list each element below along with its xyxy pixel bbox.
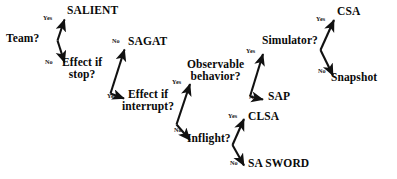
edge-simulator-yes-csa xyxy=(321,20,335,50)
edge-label-team-yes: Yes xyxy=(43,15,52,21)
edge-label-observable-yes: Yes xyxy=(246,48,255,54)
node-sa-sword[interactable]: SA SWORD xyxy=(248,158,309,170)
node-simulator[interactable]: Simulator? xyxy=(262,35,318,47)
node-csa[interactable]: CSA xyxy=(337,6,360,18)
node-effect-if-interrupt[interactable]: Effect if interrupt? xyxy=(122,89,174,112)
node-snapshot[interactable]: Snapshot xyxy=(331,72,377,84)
edge-team-yes-salient xyxy=(58,20,65,41)
node-sap[interactable]: SAP xyxy=(268,91,290,103)
edge-label-inflight-yes: Yes xyxy=(228,113,237,119)
edge-label-effectint-yes: Yes xyxy=(172,79,181,85)
node-clsa[interactable]: CLSA xyxy=(248,111,279,123)
edge-effectstop-no-sagat xyxy=(111,50,125,94)
edge-observable-yes-simulator xyxy=(250,54,263,97)
edge-label-team-no: No xyxy=(45,59,53,65)
edge-label-effectstop-yes: Yes xyxy=(107,93,116,99)
node-effect-if-stop[interactable]: Effect if stop? xyxy=(62,57,102,80)
edge-inflight-yes-clsa xyxy=(233,119,245,145)
node-inflight[interactable]: Inflight? xyxy=(187,133,231,145)
edge-label-observable-no: No xyxy=(249,94,257,100)
edge-label-simulator-no: No xyxy=(318,68,326,74)
node-observable-behavior[interactable]: Observable behavior? xyxy=(187,59,244,82)
node-salient[interactable]: SALIENT xyxy=(67,5,118,17)
decision-tree-diagram: Team? SALIENT Effect if stop? SAGAT Effe… xyxy=(0,0,397,179)
edge-label-effectint-no: No xyxy=(174,127,182,133)
node-sagat[interactable]: SAGAT xyxy=(128,36,167,48)
edge-label-effectstop-no: No xyxy=(112,38,120,44)
edge-layer xyxy=(0,0,397,179)
edge-effectint-yes-observable xyxy=(177,84,191,125)
edge-label-inflight-no: No xyxy=(230,160,238,166)
edge-label-simulator-yes: Yes xyxy=(316,16,325,22)
node-team[interactable]: Team? xyxy=(6,33,39,45)
